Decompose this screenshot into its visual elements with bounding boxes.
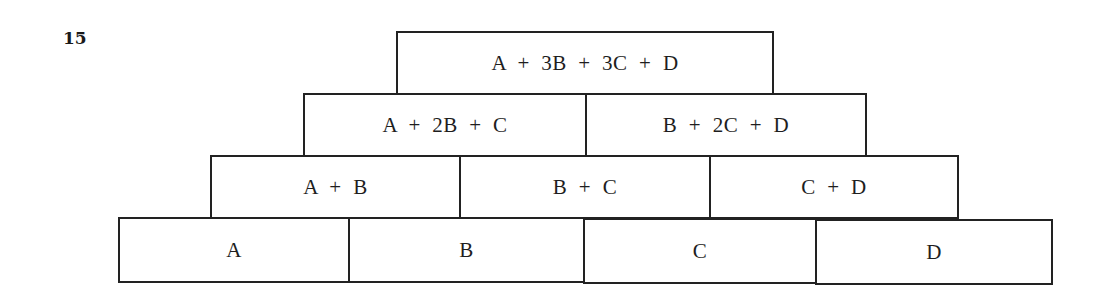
pyramid-cell-row4-3: C (583, 218, 817, 284)
cell-expression: C (693, 239, 708, 264)
cell-expression: B + 2C + D (663, 113, 789, 138)
cell-expression: D (926, 240, 942, 265)
cell-expression: B + C (553, 175, 617, 200)
cell-expression: A + 2B + C (382, 113, 507, 138)
cell-expression: A + 3B + 3C + D (491, 51, 678, 76)
pyramid-cell-row3-1: A + B (210, 155, 461, 219)
pyramid-cell-row3-2: B + C (459, 155, 711, 219)
cell-expression: B (459, 238, 474, 263)
pyramid-cell-top: A + 3B + 3C + D (396, 31, 774, 95)
pyramid-cell-row4-2: B (348, 217, 585, 283)
cell-expression: C + D (801, 175, 867, 200)
pyramid-cell-row4-1: A (118, 217, 350, 283)
cell-expression: A + B (303, 175, 367, 200)
pyramid-cell-row3-3: C + D (709, 155, 959, 219)
pyramid-cell-row2-2: B + 2C + D (585, 93, 867, 157)
question-number: 15 (63, 28, 87, 48)
cell-expression: A (226, 238, 242, 263)
pyramid-cell-row2-1: A + 2B + C (303, 93, 587, 157)
pyramid-cell-row4-4: D (815, 219, 1053, 285)
